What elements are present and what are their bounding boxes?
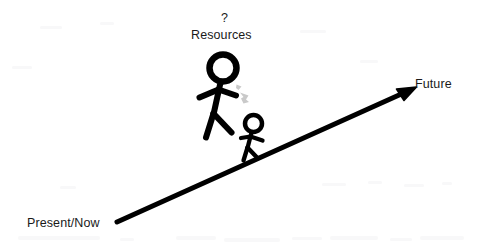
small-figure-right-leg xyxy=(248,148,258,158)
resources-label: Resources xyxy=(191,29,252,42)
large-figure-head xyxy=(210,55,237,82)
timeline-arrow xyxy=(117,87,417,222)
future-label: Future xyxy=(415,78,452,91)
present-now-label: Present/Now xyxy=(27,217,100,230)
small-stick-figure xyxy=(241,115,263,161)
large-figure-right-leg xyxy=(214,114,232,133)
question-mark-label: ? xyxy=(221,12,228,25)
large-figure-right-arm xyxy=(219,90,237,96)
small-figure-right-arm xyxy=(251,137,263,141)
large-stick-figure xyxy=(200,55,237,138)
small-figure-head xyxy=(245,115,262,132)
large-figure-left-leg xyxy=(206,114,214,138)
diagram-canvas: ? Resources Present/Now Future xyxy=(0,0,478,249)
